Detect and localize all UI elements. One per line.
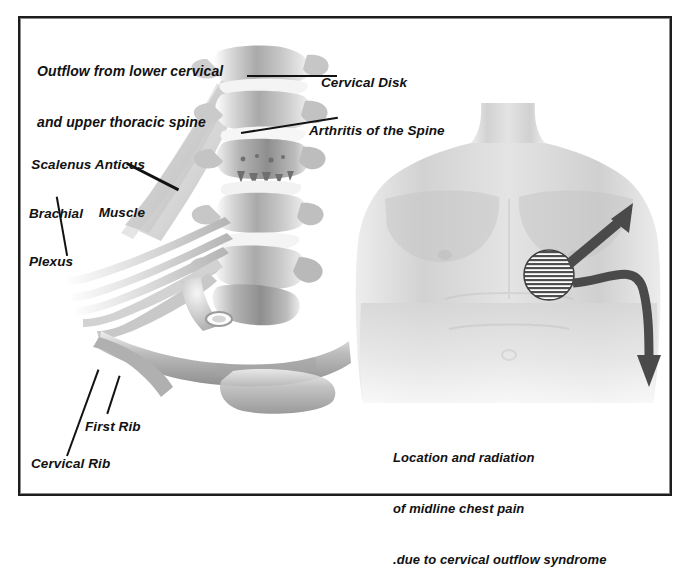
label-arthritis-of-the-spine: Arthritis of the Spine: [309, 123, 445, 139]
hatched-circle-pain-site: [524, 250, 574, 300]
figure-title-line1: Outflow from lower cervical: [37, 63, 223, 80]
label-scalenus-line1: Scalenus Anticus: [21, 157, 145, 173]
label-brachial-line1: Brachial: [29, 206, 83, 222]
label-cervical-disk: Cervical Disk: [321, 75, 407, 91]
label-first-rib: First Rib: [85, 419, 141, 435]
label-cervical-rib: Cervical Rib: [31, 456, 110, 472]
torso-caption-line3: .due to cervical outflow syndrome: [393, 551, 607, 568]
figure-frame: Outflow from lower cervical and upper th…: [18, 16, 672, 496]
neck: [471, 103, 545, 143]
torso-caption-line2: of midline chest pain: [393, 500, 607, 517]
abdomen: [360, 303, 657, 403]
torso-illustration: [349, 103, 669, 403]
torso-caption-line1: Location and radiation: [393, 449, 607, 466]
label-brachial-plexus: Brachial Plexus: [29, 174, 83, 302]
label-brachial-line2: Plexus: [29, 254, 83, 270]
torso-caption: Location and radiation of midline chest …: [393, 415, 607, 571]
